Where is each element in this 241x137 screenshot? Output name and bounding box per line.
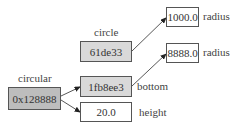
arrow-circular-to-bottom: [61, 87, 80, 96]
arrow-circular-to-height: [61, 100, 80, 112]
arrow-circle-to-radius: [132, 18, 166, 51]
circle-node: 61de33: [80, 41, 132, 62]
bottom-field-label: bottom: [137, 80, 168, 92]
circular-node: 0x128888: [8, 87, 61, 110]
bottom-node: 1fb8ee3: [80, 76, 132, 97]
circle-radius-node: 1000.0: [166, 7, 199, 27]
height-node: 20.0: [80, 102, 132, 122]
circle-label: circle: [94, 26, 118, 38]
circle-radius-field-label: radius: [203, 10, 230, 22]
bottom-radius-node: 8888.0: [166, 43, 199, 63]
circular-label: circular: [18, 72, 52, 84]
height-field-label: height: [139, 106, 167, 118]
bottom-radius-field-label: radius: [203, 46, 230, 58]
